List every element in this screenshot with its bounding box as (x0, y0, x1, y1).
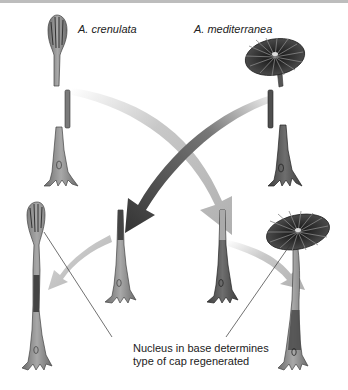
arrow-to-bottom-left (48, 235, 112, 290)
regenerated-crenulata (22, 202, 52, 370)
crenulata-base (44, 127, 78, 186)
caption-line-2: type of cap regenerated (133, 355, 269, 368)
leader-line-right (226, 245, 290, 337)
mediterranea-base (268, 125, 302, 186)
figure-caption: Nucleus in base determines type of cap r… (133, 342, 269, 368)
acetabularia-diagram (0, 0, 348, 390)
regenerated-mediterranea (263, 209, 333, 370)
crenulata-cap (48, 15, 67, 86)
crenulata-stalk-segment (65, 90, 70, 128)
label-mediterranea: A. mediterranea (194, 23, 272, 35)
caption-line-1: Nucleus in base determines (133, 342, 269, 355)
mediterranea-stalk-segment (268, 90, 273, 128)
graft-middle-right (207, 210, 238, 303)
mediterranea-cap (242, 34, 307, 87)
arrow-crenulata-to-mediterranea (72, 88, 232, 235)
label-crenulata: A. crenulata (78, 23, 137, 35)
